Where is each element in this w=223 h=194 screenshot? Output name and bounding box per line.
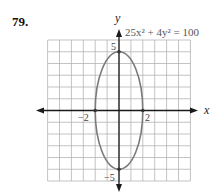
vertex-left	[93, 109, 97, 113]
axes	[36, 29, 198, 192]
x-axis-right-arrow-icon	[190, 108, 198, 114]
tick-label-neg-y: −5	[104, 172, 115, 183]
tick-label-pos-y: 5	[111, 41, 116, 52]
ellipse-graph: y x 25x² + 4y² = 100 5 −5 −2 2	[0, 0, 223, 194]
tick-label-neg-x: −2	[78, 112, 89, 123]
vertex-bottom	[117, 167, 121, 171]
y-axis-label: y	[114, 11, 121, 25]
vertex-top	[117, 50, 121, 54]
equation-label: 25x² + 4y² = 100	[125, 26, 200, 38]
y-axis-bottom-arrow-icon	[116, 184, 122, 192]
x-axis-left-arrow-icon	[36, 108, 44, 114]
y-axis-top-arrow-icon	[116, 29, 122, 37]
x-axis-label: x	[203, 103, 210, 117]
tick-label-pos-x: 2	[145, 112, 150, 123]
